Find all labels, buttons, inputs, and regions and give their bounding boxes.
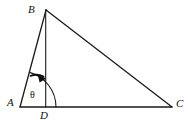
segment-bc <box>46 10 172 107</box>
vertex-label-c: C <box>176 98 183 109</box>
vertex-label-d: D <box>40 110 48 121</box>
angle-label-theta: θ <box>30 90 35 100</box>
vertex-label-b: B <box>28 4 35 15</box>
vertex-label-a: A <box>7 97 14 108</box>
angle-arrow-arc <box>31 75 44 77</box>
geometry-figure: A B C D θ <box>0 0 192 126</box>
figure-canvas <box>0 0 192 126</box>
